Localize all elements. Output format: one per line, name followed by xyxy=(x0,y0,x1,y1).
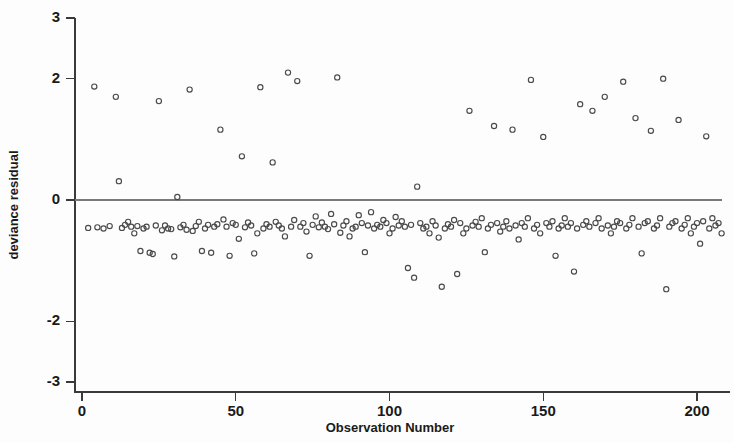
data-point xyxy=(381,217,386,222)
data-point xyxy=(467,108,472,113)
data-point xyxy=(239,154,244,159)
data-point xyxy=(495,220,500,225)
data-point xyxy=(476,224,481,229)
data-point xyxy=(159,228,164,233)
data-point xyxy=(654,223,659,228)
data-point xyxy=(707,226,712,231)
data-point xyxy=(550,219,555,224)
data-point xyxy=(258,85,263,90)
data-point xyxy=(122,222,127,227)
data-point xyxy=(658,216,663,221)
data-point xyxy=(116,179,121,184)
data-point xyxy=(245,220,250,225)
data-point xyxy=(587,224,592,229)
data-point xyxy=(498,229,503,234)
data-point xyxy=(694,220,699,225)
y-tick-label: 0 xyxy=(52,190,60,207)
data-point xyxy=(436,235,441,240)
data-point xyxy=(584,219,589,224)
data-point xyxy=(599,226,604,231)
data-point xyxy=(510,127,515,132)
data-point xyxy=(491,123,496,128)
data-point xyxy=(541,134,546,139)
data-point xyxy=(608,231,613,236)
y-tick-label: 2 xyxy=(52,69,60,86)
data-point xyxy=(304,229,309,234)
x-tick-label: 200 xyxy=(684,402,709,419)
data-point xyxy=(461,231,466,236)
data-point xyxy=(199,248,204,253)
data-point xyxy=(559,223,564,228)
data-point xyxy=(513,223,518,228)
data-point xyxy=(221,217,226,222)
data-point xyxy=(621,79,626,84)
data-point xyxy=(129,224,134,229)
data-point xyxy=(236,236,241,241)
data-point xyxy=(190,228,195,233)
data-point xyxy=(473,219,478,224)
y-tick-label: 3 xyxy=(52,8,60,25)
data-point xyxy=(479,216,484,221)
data-point xyxy=(528,77,533,82)
data-point xyxy=(418,220,423,225)
data-point xyxy=(209,250,214,255)
data-point xyxy=(356,213,361,218)
data-point xyxy=(439,284,444,289)
x-tick-label: 100 xyxy=(377,402,402,419)
data-point xyxy=(710,216,715,221)
data-point xyxy=(242,225,247,230)
data-point xyxy=(362,250,367,255)
data-point xyxy=(107,223,112,228)
data-point xyxy=(175,194,180,199)
data-point xyxy=(427,231,432,236)
data-point xyxy=(602,94,607,99)
x-tick-label: 150 xyxy=(531,402,556,419)
data-point xyxy=(224,224,229,229)
data-point xyxy=(593,220,598,225)
data-point xyxy=(187,87,192,92)
data-point xyxy=(172,254,177,259)
data-point xyxy=(390,226,395,231)
y-tick-label: -3 xyxy=(47,372,60,389)
data-point xyxy=(368,210,373,215)
axis-ticks xyxy=(66,18,697,401)
data-point xyxy=(664,287,669,292)
data-point xyxy=(402,224,407,229)
y-tick-label: -2 xyxy=(47,311,60,328)
scatter-plot: 320-2-3050100150200 Observation Number d… xyxy=(0,0,734,443)
data-point xyxy=(415,184,420,189)
plot-axes xyxy=(75,18,730,392)
data-point xyxy=(408,222,413,227)
data-point xyxy=(86,225,91,230)
data-point xyxy=(156,99,161,104)
data-point xyxy=(504,219,509,224)
data-point xyxy=(701,219,706,224)
data-point xyxy=(568,220,573,225)
data-point xyxy=(132,231,137,236)
data-point xyxy=(153,223,158,228)
data-point xyxy=(458,220,463,225)
data-point xyxy=(697,241,702,246)
data-point xyxy=(547,224,552,229)
data-point xyxy=(313,214,318,219)
data-point xyxy=(126,219,131,224)
data-point xyxy=(412,275,417,280)
data-point xyxy=(344,219,349,224)
data-point xyxy=(387,231,392,236)
data-point xyxy=(501,224,506,229)
data-point xyxy=(639,251,644,256)
data-point xyxy=(651,226,656,231)
data-point xyxy=(596,216,601,221)
data-point xyxy=(384,220,389,225)
data-point xyxy=(292,217,297,222)
data-point xyxy=(359,220,364,225)
data-point xyxy=(399,219,404,224)
data-point xyxy=(255,231,260,236)
data-point xyxy=(571,269,576,274)
data-point xyxy=(630,216,635,221)
data-point xyxy=(556,226,561,231)
data-point xyxy=(335,75,340,80)
data-point xyxy=(661,76,666,81)
data-point xyxy=(636,224,641,229)
data-point xyxy=(682,222,687,227)
